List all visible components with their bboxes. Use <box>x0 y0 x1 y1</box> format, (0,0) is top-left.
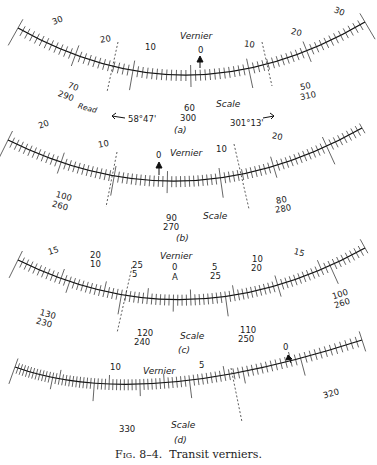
ticks-d <box>9 331 366 401</box>
tick-mark <box>152 379 153 390</box>
panel-a: 30 20 10 0 10 20 30 Vernier 70 290 60 30… <box>8 4 375 135</box>
panel-c: 15 20 10 25 5 0 A 5 25 10 20 15 Vernier … <box>9 239 368 355</box>
figure-title: Transit verniers. <box>169 448 262 461</box>
vernier-number-bottom: 10 <box>90 259 101 269</box>
tick-mark <box>199 294 200 305</box>
figure-caption: Fig. 8–4. Transit verniers. <box>0 448 377 461</box>
vernier-number: 10 <box>216 144 227 154</box>
tick-mark <box>147 288 149 304</box>
transit-verniers-figure: 30 20 10 0 10 20 30 Vernier 70 290 60 30… <box>0 0 377 465</box>
tick-mark <box>203 294 204 305</box>
tick-mark <box>93 378 95 401</box>
vernier-label: Vernier <box>170 148 204 158</box>
tick-mark <box>87 378 88 389</box>
tick-mark <box>172 377 173 388</box>
ticks-a <box>8 13 375 90</box>
tick-mark <box>214 69 215 80</box>
tick-mark <box>202 175 203 186</box>
tick-mark <box>189 375 192 398</box>
scale-number: 320 <box>322 386 340 400</box>
tick-mark <box>58 370 61 385</box>
scale-number-bottom: 280 <box>274 202 292 215</box>
panel-b: 20 10 0 10 20 Vernier 100 260 90 270 80 … <box>0 118 365 243</box>
vernier-number: 20 <box>99 33 111 45</box>
tick-mark <box>158 176 159 187</box>
tick-mark <box>164 374 165 389</box>
tick-mark <box>157 69 158 80</box>
dashed-line-d <box>231 368 242 422</box>
scale-number-top: 60 <box>184 103 195 113</box>
vernier-number: 15 <box>47 244 60 257</box>
arrow-right-icon <box>263 113 274 119</box>
sub-label-a: (a) <box>174 125 187 135</box>
vernier-number: 0 <box>156 150 161 160</box>
arc-a <box>18 22 365 75</box>
tick-mark <box>210 69 211 80</box>
scale-number-bottom: 240 <box>134 337 150 347</box>
tick-mark <box>156 294 157 305</box>
tick-mark <box>205 69 206 80</box>
tick-mark <box>148 379 149 390</box>
dashed-line-b-right <box>234 144 249 209</box>
vernier-number: 15 <box>293 246 306 258</box>
vernier-number-bottom: 5 <box>132 269 137 279</box>
vernier-number-bottom: A <box>172 272 178 282</box>
tick-mark <box>190 290 191 306</box>
vernier-label: Vernier <box>160 251 194 261</box>
tick-mark <box>189 176 190 187</box>
vernier-number: 10 <box>110 362 121 372</box>
vernier-number: 10 <box>243 38 255 49</box>
tick-mark <box>98 378 99 389</box>
reading-left: 58°47' <box>128 114 156 124</box>
vernier-number: 20 <box>290 26 303 38</box>
sub-label-d: (d) <box>174 435 187 445</box>
tick-mark <box>161 69 162 80</box>
vernier-number: 10 <box>145 42 156 52</box>
tick-mark <box>208 294 209 305</box>
tick-mark <box>140 379 141 396</box>
tick-mark <box>200 70 201 81</box>
tick-mark <box>247 59 253 88</box>
tick-mark <box>140 175 141 186</box>
tick-mark <box>198 175 199 186</box>
tick-mark <box>322 137 335 164</box>
scale-label: Scale <box>180 331 205 341</box>
tick-mark <box>151 294 152 305</box>
tick-mark <box>66 277 71 293</box>
tick-mark <box>195 294 196 305</box>
scale-label: Scale <box>203 211 228 221</box>
tick-mark <box>225 292 228 317</box>
vernier-number: 10 <box>97 138 109 150</box>
tick-mark <box>118 290 122 315</box>
tick-mark <box>101 379 102 390</box>
tick-mark <box>145 175 146 186</box>
tick-mark <box>160 378 161 389</box>
scale-number: 330 <box>119 424 135 434</box>
read-label: Read <box>77 101 98 115</box>
tick-mark <box>166 70 167 81</box>
vernier-number: 20 <box>37 118 51 131</box>
tick-mark <box>168 377 169 388</box>
figure-label: Fig. 8–4. <box>115 448 162 461</box>
tick-mark <box>9 251 22 278</box>
scale-number-bottom: 310 <box>299 89 317 102</box>
vernier-number: 5 <box>199 360 204 370</box>
tick-mark <box>0 131 12 158</box>
vernier-number-bottom: 25 <box>210 271 221 281</box>
tick-mark <box>359 331 366 351</box>
tick-mark <box>223 366 226 381</box>
scale-number-bottom: 250 <box>238 334 254 344</box>
tick-mark <box>160 294 161 305</box>
vernier-number-bottom: 20 <box>251 263 262 273</box>
tick-mark <box>50 373 53 390</box>
dashed-line-b-left <box>106 152 117 207</box>
tick-mark <box>212 293 213 304</box>
sub-label-c: (c) <box>178 345 190 355</box>
tick-mark <box>233 285 236 301</box>
tick-mark <box>154 176 155 187</box>
vernier-label: Vernier <box>180 31 214 41</box>
scale-label: Scale <box>216 99 241 109</box>
tick-mark <box>149 175 150 186</box>
tick-mark <box>8 19 23 45</box>
tick-mark <box>59 269 64 284</box>
